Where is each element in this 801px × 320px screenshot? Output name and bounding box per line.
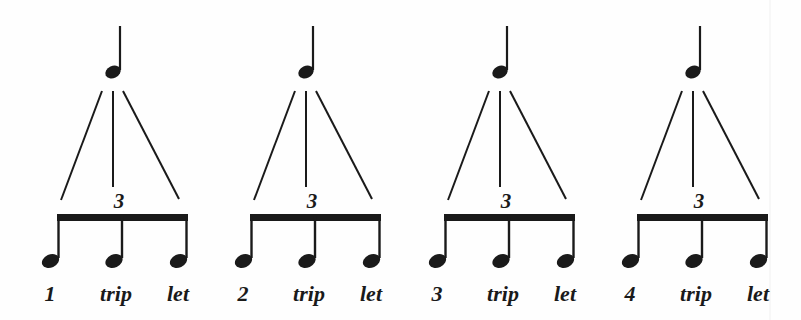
tuplet-number: 3 — [693, 189, 705, 213]
count-syllable-label: trip — [487, 281, 519, 306]
branch-line-right — [510, 91, 566, 199]
count-syllable-label: let — [360, 281, 383, 306]
count-syllable-label: let — [167, 281, 190, 306]
branch-line-left — [61, 91, 102, 200]
triplet-diagram: 31triplet32triplet33triplet34triplet — [0, 0, 801, 320]
branch-line-right — [123, 91, 179, 199]
count-syllable-label: trip — [293, 281, 325, 306]
branch-line-left — [254, 91, 295, 200]
count-syllable-label: trip — [100, 281, 132, 306]
count-syllable-label: 1 — [45, 281, 56, 306]
count-syllable-label: 2 — [237, 281, 249, 306]
branch-line-right — [703, 91, 759, 199]
triplet-group-2: 32triplet — [233, 26, 383, 306]
triplet-group-3: 33triplet — [427, 26, 577, 306]
count-syllable-label: 4 — [624, 281, 636, 306]
branch-line-left — [641, 91, 682, 200]
diagram-canvas: 31triplet32triplet33triplet34triplet — [0, 0, 801, 320]
branch-line-left — [448, 91, 489, 200]
tuplet-number: 3 — [113, 189, 125, 213]
triplet-group-1: 31triplet — [40, 26, 190, 306]
branch-line-right — [316, 91, 372, 199]
count-syllable-label: 3 — [431, 281, 443, 306]
count-syllable-label: let — [554, 281, 577, 306]
tuplet-number: 3 — [306, 189, 318, 213]
triplet-group-4: 34triplet — [620, 26, 770, 306]
count-syllable-label: let — [747, 281, 770, 306]
tuplet-number: 3 — [500, 189, 512, 213]
count-syllable-label: trip — [680, 281, 712, 306]
